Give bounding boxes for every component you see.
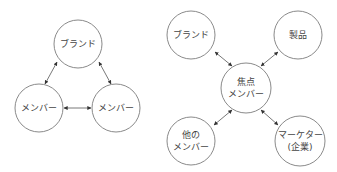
edge-focal-product — [261, 52, 278, 66]
triad-diagram: ブランド メンバー メンバー — [15, 20, 140, 132]
node-brand-2-label: ブランド — [173, 29, 209, 40]
edge-focal-brand — [215, 52, 232, 66]
node-marketer: マーケター (企業) — [275, 116, 325, 166]
edge-focal-other-members — [214, 110, 232, 125]
node-brand-2: ブランド — [167, 11, 215, 59]
node-focal-member: 焦点 メンバー — [221, 63, 271, 113]
edge-focal-marketer — [261, 110, 278, 125]
node-other-members-line2: メンバー — [173, 142, 209, 152]
focal-network-diagram: ブランド 製品 焦点 メンバー 他の メンバー マーケター (企業) — [167, 11, 325, 166]
node-product-label: 製品 — [289, 29, 307, 40]
node-brand: ブランド — [54, 20, 102, 68]
node-member-right-label: メンバー — [98, 103, 134, 113]
diagram-canvas: ブランド メンバー メンバー ブランド 製品 焦点 メンバー — [0, 0, 337, 172]
node-other-members-line1: 他の — [182, 129, 200, 140]
node-member-left: メンバー — [15, 84, 63, 132]
node-focal-member-line2: メンバー — [228, 89, 264, 99]
node-marketer-line2: (企業) — [287, 141, 312, 152]
edge-brand-member-right — [99, 62, 111, 84]
node-member-left-label: メンバー — [21, 103, 57, 113]
edge-brand-member-left — [45, 62, 57, 84]
node-marketer-line1: マーケター — [278, 130, 323, 140]
node-member-right: メンバー — [92, 84, 140, 132]
node-product: 製品 — [274, 11, 322, 59]
node-brand-label: ブランド — [60, 38, 96, 49]
node-focal-member-line1: 焦点 — [237, 76, 255, 87]
node-other-members: 他の メンバー — [167, 117, 215, 165]
